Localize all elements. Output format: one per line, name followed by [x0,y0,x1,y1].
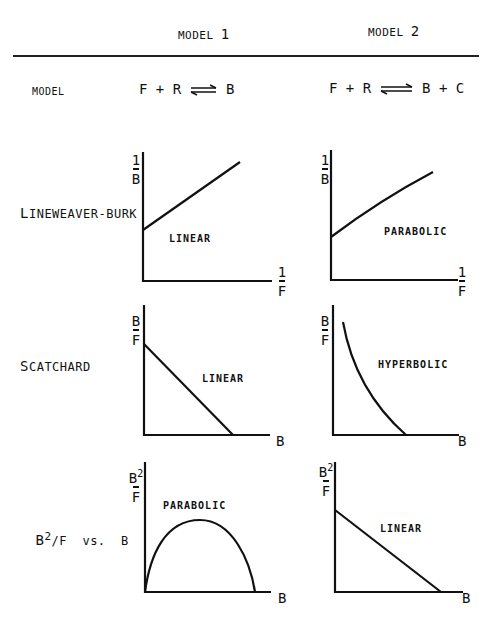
curve-label: PARABOLIC [384,226,447,237]
y-axis-denominator: F [321,332,329,348]
y-axis-superscript: 2 [137,468,143,479]
y-axis-denominator: B [321,171,329,187]
axes [144,305,270,435]
curve-hyperbolic [343,322,406,435]
y-axis-denominator: F [322,483,330,499]
y-axis-label: B2F [316,466,336,497]
y-axis-denominator: F [132,332,140,348]
x-axis-label: 1F [455,266,469,297]
plot-b2f-model1 [145,462,271,592]
y-axis-numerator: B [132,313,140,329]
x-axis-numerator: 1 [458,264,466,280]
y-axis-numerator: B [319,464,327,480]
curve-label: HYPERBOLIC [378,359,448,370]
x-axis-label: B [276,433,284,449]
curve-linear [144,344,233,435]
x-axis-numerator: 1 [278,264,286,280]
y-axis-label: 1B [129,154,143,185]
axes [145,462,271,592]
curve-label: PARABOLIC [163,500,226,511]
plot-lb-model1 [143,152,272,281]
y-axis-superscript: 2 [327,462,333,473]
x-axis-label: 1F [275,266,289,297]
x-axis-label: B [458,433,466,449]
x-axis-denominator: F [278,283,286,299]
y-axis-denominator: B [132,171,140,187]
curve-label: LINEAR [202,373,244,384]
curve-label: LINEAR [169,233,211,244]
y-axis-numerator: B [129,470,137,486]
y-axis-label: 1B [318,154,332,185]
axes [331,150,458,280]
y-axis-label: BF [129,315,143,346]
y-axis-label: BF [318,315,332,346]
plot-scatchard-model1 [144,305,270,435]
plot-scatchard-model2 [333,305,459,435]
y-axis-denominator: F [132,489,140,505]
curve-label: LINEAR [380,523,422,534]
x-axis-denominator: F [458,283,466,299]
y-axis-numerator: 1 [132,152,140,168]
x-axis-label: B [278,590,286,606]
y-axis-label: B2F [126,472,146,503]
y-axis-numerator: 1 [321,152,329,168]
y-axis-numerator: B [321,313,329,329]
curve-linear [143,162,240,230]
axes [333,305,459,435]
x-axis-label: B [462,590,470,606]
curve-parabolic [145,520,255,592]
plot-lb-model2 [331,150,458,280]
